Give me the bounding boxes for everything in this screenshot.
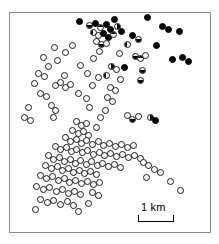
map-point-open — [135, 113, 142, 120]
map-point-open — [117, 76, 124, 83]
map-point-open — [62, 49, 69, 56]
map-point-open — [77, 62, 84, 69]
map-point-open — [37, 196, 44, 203]
map-point-solid — [165, 26, 172, 33]
scale-bar-bracket — [138, 215, 174, 222]
map-point-open — [102, 107, 109, 114]
map-point-open — [142, 52, 149, 59]
map-point-open — [57, 201, 64, 208]
map-point-open — [77, 191, 84, 198]
map-point-open — [52, 107, 59, 114]
map-point-open — [109, 98, 116, 105]
map-point-solid — [169, 56, 176, 63]
map-point-half — [124, 41, 131, 48]
map-point-half — [110, 31, 117, 38]
map-point-open — [167, 178, 174, 185]
map-point-open — [116, 50, 123, 57]
map-point-solid — [76, 18, 83, 25]
map-point-open — [70, 202, 77, 209]
map-point-open — [103, 40, 110, 47]
map-point-open — [130, 142, 137, 149]
map-point-open — [117, 164, 124, 171]
map-point-open — [31, 80, 38, 87]
map-point-open — [32, 206, 39, 213]
map-point-solid — [152, 117, 159, 124]
scale-bar-label: 1 km — [138, 201, 198, 213]
map-point-open — [95, 192, 102, 199]
map-point-half — [137, 77, 144, 84]
map-point-half — [139, 67, 146, 74]
map-point-open — [54, 57, 61, 64]
map-point-open — [177, 187, 184, 194]
map-point-open — [75, 90, 82, 97]
map-point-open — [50, 114, 57, 121]
map-point-open — [96, 48, 103, 55]
map-point-open — [43, 93, 50, 100]
map-point-open — [95, 74, 102, 81]
map-point-half — [135, 36, 142, 43]
map-point-open — [85, 200, 92, 207]
map-point-open — [112, 87, 119, 94]
map-point-open — [93, 124, 100, 131]
map-point-open — [61, 72, 68, 79]
map-point-open — [50, 197, 57, 204]
map-point-open — [84, 70, 91, 77]
map-point-solid — [185, 58, 192, 65]
map-point-open — [33, 183, 40, 190]
map-point-solid — [111, 16, 118, 23]
map-point-open — [89, 82, 96, 89]
map-point-open — [25, 104, 32, 111]
scatter-points-layer — [10, 13, 210, 232]
map-point-open — [93, 171, 100, 178]
map-point-open — [157, 169, 164, 176]
map-point-open — [97, 114, 104, 121]
map-point-open — [96, 179, 103, 186]
map-point-open — [69, 42, 76, 49]
map-point-open — [90, 55, 97, 62]
map-point-open — [83, 95, 90, 102]
map-plot-frame: 1 km — [9, 12, 211, 233]
map-point-open — [113, 66, 120, 73]
scale-bar: 1 km — [138, 201, 198, 222]
map-point-open — [45, 63, 52, 70]
map-point-open — [51, 44, 58, 51]
map-point-half — [103, 72, 110, 79]
map-point-open — [86, 104, 93, 111]
map-point-open — [27, 117, 34, 124]
map-point-solid — [153, 42, 160, 49]
map-point-open — [41, 73, 48, 80]
map-point-open — [143, 174, 150, 181]
map-point-open — [40, 54, 47, 61]
map-point-solid — [176, 28, 183, 35]
map-point-solid — [144, 14, 151, 21]
distribution-map-figure: 1 km — [0, 0, 219, 244]
map-point-solid — [121, 64, 128, 71]
map-point-open — [46, 184, 53, 191]
map-point-solid — [118, 28, 125, 35]
map-point-open — [67, 81, 74, 88]
map-point-open — [75, 208, 82, 215]
map-point-open — [83, 120, 90, 127]
